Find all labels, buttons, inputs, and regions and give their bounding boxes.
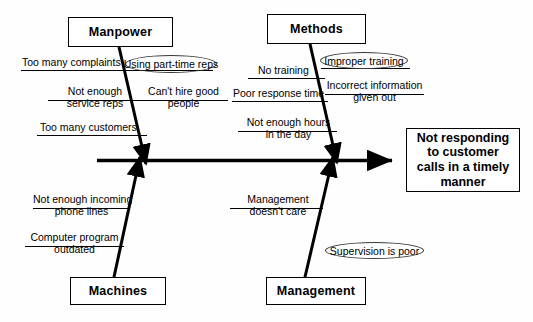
category-label-machines: Machines (89, 284, 148, 298)
cause-supervision-is-poor-circled[interactable]: Supervision is poor (325, 242, 424, 259)
cause-text-not-enough-hours-line2: in the day (240, 129, 337, 141)
cause-not-enough-service-reps[interactable]: Not enough service reps (48, 86, 142, 110)
cause-text-cant-hire-good-people-line2: people (139, 98, 228, 110)
effect-line-3: calls in a timely (417, 160, 509, 174)
cause-cant-hire-good-people[interactable]: Can't hire good people (139, 86, 228, 110)
cause-incorrect-information-given-out[interactable]: Incorrect information given out (325, 80, 424, 104)
cause-text-management-doesnt-care-line1: Management (247, 193, 308, 205)
cause-poor-response-time[interactable]: Poor response time (233, 88, 324, 100)
cause-text-using-part-time-reps: Using part-time reps (124, 58, 219, 70)
cause-text-not-enough-service-reps-line1: Not enough (68, 85, 122, 97)
category-box-manpower[interactable]: Manpower (68, 17, 173, 47)
effect-line-1: Not responding (417, 131, 509, 145)
cause-text-cant-hire-good-people-line1: Can't hire good (148, 85, 219, 97)
cause-text-poor-response-time: Poor response time (233, 87, 324, 99)
cause-text-too-many-customers: Too many customers (40, 121, 137, 133)
cause-text-management-doesnt-care-line2: doesn't care (233, 206, 323, 218)
cause-text-supervision-is-poor: Supervision is poor (330, 245, 419, 257)
effect-box[interactable]: Not responding to customer calls in a ti… (406, 128, 520, 192)
cause-not-enough-hours-in-the-day[interactable]: Not enough hours in the day (240, 117, 337, 141)
fishbone-diagram: Manpower Methods Machines Management Not… (0, 0, 533, 322)
cause-using-part-time-reps-circled[interactable]: Using part-time reps (125, 55, 217, 73)
cause-too-many-complaints[interactable]: Too many complaints (22, 57, 121, 69)
cause-not-enough-incoming-phone-lines[interactable]: Not enough incoming phone lines (33, 194, 130, 218)
cause-text-not-enough-service-reps-line2: service reps (48, 98, 142, 110)
effect-line-2: to customer (427, 145, 499, 159)
cause-text-improper-training: Improper training (324, 55, 403, 67)
cause-computer-program-outdated[interactable]: Computer program outdated (26, 232, 123, 256)
category-label-methods: Methods (290, 22, 343, 36)
cause-improper-training-circled[interactable]: Improper training (320, 52, 408, 69)
cause-text-no-training: No training (258, 64, 309, 76)
cause-text-computer-program-line1: Computer program (30, 231, 118, 243)
category-label-manpower: Manpower (89, 25, 152, 39)
effect-text: Not responding to customer calls in a ti… (417, 131, 509, 190)
cause-text-incorrect-information-line2: given out (325, 92, 424, 104)
category-label-management: Management (277, 284, 355, 298)
effect-line-4: manner (440, 175, 485, 189)
cause-too-many-customers[interactable]: Too many customers (40, 122, 137, 134)
cause-management-doesnt-care[interactable]: Management doesn't care (233, 194, 323, 218)
cause-text-not-enough-hours-line1: Not enough hours (247, 116, 330, 128)
cause-text-not-enough-incoming-line1: Not enough incoming (33, 193, 132, 205)
cause-text-too-many-complaints: Too many complaints (22, 56, 121, 68)
category-box-management[interactable]: Management (266, 277, 366, 305)
category-box-methods[interactable]: Methods (267, 14, 366, 44)
cause-text-incorrect-information-line1: Incorrect information (327, 79, 423, 91)
category-box-machines[interactable]: Machines (70, 277, 166, 305)
cause-text-not-enough-incoming-line2: phone lines (33, 206, 130, 218)
cause-text-computer-program-line2: outdated (26, 244, 123, 256)
cause-no-training[interactable]: No training (258, 65, 309, 77)
